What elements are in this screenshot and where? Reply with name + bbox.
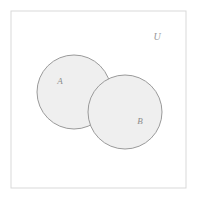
- set-label-b: B: [137, 116, 143, 126]
- universe-label-u: U: [153, 31, 161, 42]
- venn-diagram-figure: A B U: [0, 0, 197, 200]
- venn-diagram-canvas: A B U: [0, 0, 197, 200]
- set-label-a: A: [56, 76, 63, 86]
- set-circle-b: [88, 75, 162, 149]
